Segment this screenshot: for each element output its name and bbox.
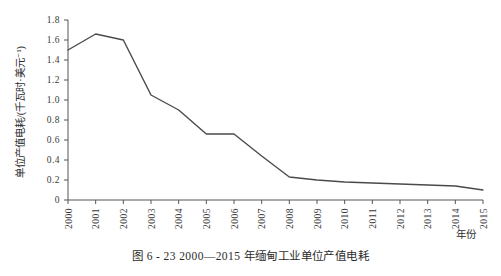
- x-tick-label: 2001: [91, 208, 101, 229]
- x-tick-label: 2005: [202, 208, 212, 229]
- y-tick-label: 0: [55, 195, 60, 205]
- data-series-line: [68, 34, 483, 190]
- x-axis-title: 年份: [456, 228, 477, 240]
- y-tick-label: 1.8: [47, 15, 60, 25]
- figure-container: 单位产值电耗/(千瓦时·美元⁻¹) 00.20.40.60.81.01.21.4…: [0, 0, 501, 276]
- x-tick-label: 2013: [423, 208, 433, 229]
- y-tick-label: 0.4: [47, 155, 60, 165]
- x-tick-label: 2011: [368, 208, 378, 229]
- x-tick-label: 2010: [340, 208, 350, 229]
- y-tick-label: 0.2: [47, 175, 60, 185]
- x-tick-label: 2006: [230, 208, 240, 229]
- x-tick-label: 2012: [396, 208, 406, 229]
- x-tick-label: 2008: [285, 208, 295, 229]
- x-tick-label: 2014: [451, 208, 461, 229]
- x-tick-label: 2015: [479, 208, 489, 229]
- chart-plot-area: 单位产值电耗/(千瓦时·美元⁻¹) 00.20.40.60.81.01.21.4…: [0, 0, 501, 245]
- y-tick-label: 0.6: [47, 135, 60, 145]
- x-tick-label: 2002: [119, 208, 129, 229]
- y-tick-label: 0.8: [47, 115, 60, 125]
- y-tick-label: 1.2: [47, 75, 60, 85]
- line-chart: 单位产值电耗/(千瓦时·美元⁻¹) 00.20.40.60.81.01.21.4…: [0, 0, 501, 245]
- y-axis-title: 单位产值电耗/(千瓦时·美元⁻¹): [14, 45, 27, 178]
- x-tick-label: 2000: [64, 208, 74, 229]
- y-tick-label: 1.6: [47, 35, 60, 45]
- x-axis-ticks: 2000200120022003200420052006200720082009…: [64, 200, 489, 229]
- x-tick-label: 2003: [147, 208, 157, 229]
- figure-caption: 图 6 - 23 2000—2015 年缅甸工业单位产值电耗: [0, 247, 501, 263]
- y-axis-ticks: 00.20.40.60.81.01.21.41.61.8: [47, 15, 68, 205]
- x-tick-label: 2004: [174, 208, 184, 229]
- x-tick-label: 2009: [313, 208, 323, 229]
- y-tick-label: 1.4: [47, 55, 60, 65]
- y-tick-label: 1.0: [47, 95, 60, 105]
- x-tick-label: 2007: [257, 208, 267, 229]
